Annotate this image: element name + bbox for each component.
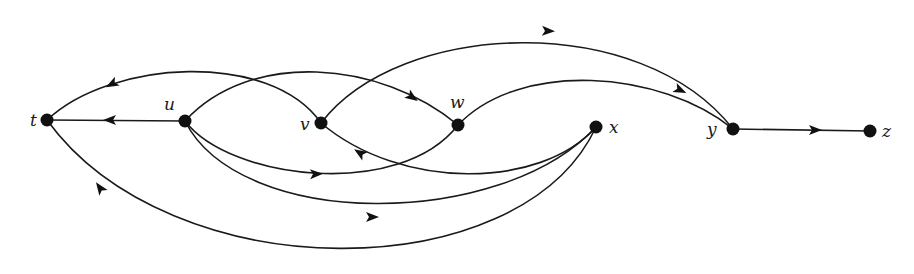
node-z [864, 125, 877, 138]
arrowhead-icon [103, 77, 119, 92]
edge-u-to-t [47, 120, 185, 121]
node-label-v: v [300, 114, 310, 134]
nodes-group [41, 114, 877, 138]
node-x [590, 121, 603, 134]
arrowhead-icon [92, 179, 108, 195]
edge-y-to-z [733, 129, 870, 131]
arrowhead-icon [351, 145, 367, 160]
arrowhead-icon [542, 26, 555, 36]
arrowhead-icon [366, 212, 379, 222]
node-label-y: y [706, 119, 717, 139]
arrowhead-icon [404, 89, 420, 105]
edges-group [47, 43, 870, 249]
node-y [727, 123, 740, 136]
node-label-x: x [609, 117, 619, 137]
labels-group: tuvwxyz [30, 92, 892, 141]
edge-u-to-x [185, 121, 596, 204]
arrowhead-icon [672, 83, 688, 98]
arrowhead-icon [310, 169, 323, 179]
node-label-z: z [881, 121, 892, 141]
node-v [315, 117, 328, 130]
node-w [452, 119, 465, 132]
directed-graph-canvas: tuvwxyz [0, 0, 914, 274]
edge-x-to-t [47, 120, 596, 248]
node-label-u: u [164, 94, 175, 114]
node-label-w: w [450, 92, 465, 112]
edge-v-to-y [321, 43, 733, 129]
node-u [179, 115, 192, 128]
node-label-t: t [30, 110, 37, 130]
node-t [41, 114, 54, 127]
